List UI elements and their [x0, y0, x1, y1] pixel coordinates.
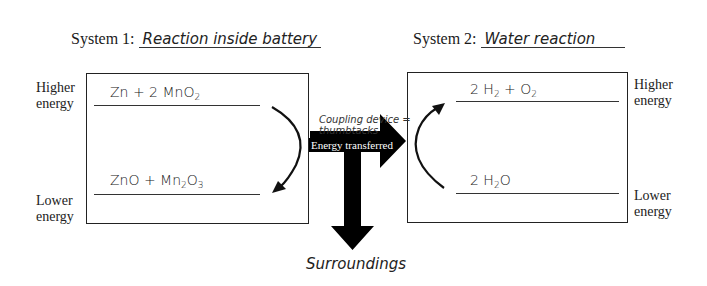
species-text: O: [500, 172, 511, 188]
surroundings-arrow-icon: [331, 150, 374, 250]
species-text: Zn + 2 MnO: [110, 84, 194, 100]
label-line: Coupling device =: [319, 114, 411, 125]
system2-reactants: 2 H2O: [470, 172, 511, 190]
label-line: energy: [36, 209, 74, 225]
label-line: energy: [634, 204, 672, 220]
species-subscript: 2: [194, 92, 200, 102]
energy-transferred-label: Energy transferred: [309, 138, 395, 152]
species-text: + O: [500, 81, 532, 97]
species-text: O: [187, 172, 198, 188]
label-line: Lower: [36, 193, 74, 209]
system2-higher-energy-label: Higher energy: [634, 77, 673, 109]
species-text: 2 H: [470, 172, 494, 188]
species-text: ZnO + Mn: [110, 172, 181, 188]
system2-lower-energy-label: Lower energy: [634, 188, 672, 220]
label-line: energy: [634, 93, 673, 109]
system2-lower-level-line: [456, 193, 619, 194]
label-line: Higher: [634, 77, 673, 93]
label-line: thumbtacks: [319, 125, 411, 136]
coupling-device-label: Coupling device = thumbtacks: [319, 114, 411, 136]
surroundings-label: Surroundings: [306, 255, 406, 273]
system1-products: ZnO + Mn2O3: [110, 172, 204, 190]
system2-name: Water reaction: [481, 31, 626, 48]
system2-higher-level-line: [456, 101, 619, 102]
species-text: 2 H: [470, 81, 494, 97]
label-line: Lower: [634, 188, 672, 204]
system1-name: Reaction inside battery: [139, 31, 322, 48]
system1-title-prefix: System 1:: [71, 30, 135, 47]
label-line: Higher: [36, 80, 75, 96]
system1-title: System 1: Reaction inside battery: [71, 30, 321, 48]
species-subscript: 2: [531, 89, 537, 99]
species-subscript: 3: [198, 180, 204, 190]
system1-reactants: Zn + 2 MnO2: [110, 84, 200, 102]
system1-lower-level-line: [94, 194, 260, 195]
system1-higher-level-line: [94, 105, 260, 106]
system2-products: 2 H2 + O2: [470, 81, 537, 99]
system2-title-prefix: System 2:: [413, 30, 477, 47]
system1-lower-energy-label: Lower energy: [36, 193, 74, 225]
system1-higher-energy-label: Higher energy: [36, 80, 75, 112]
label-line: energy: [36, 96, 75, 112]
system2-title: System 2: Water reaction: [413, 30, 625, 48]
